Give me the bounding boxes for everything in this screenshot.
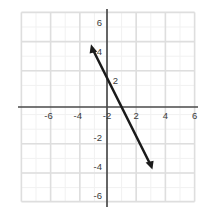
- x-tick-label-neg6: -6: [44, 110, 52, 121]
- y-tick-label-neg6: -6: [94, 190, 102, 201]
- x-tick-label-pos6: 6: [192, 110, 197, 121]
- coordinate-plane-graph: -6 -4 -2 2 4 6 6 4 2 -2 -4 -6: [0, 0, 215, 219]
- y-tick-label-pos4: 4: [97, 46, 102, 57]
- x-tick-label-neg2: -2: [103, 110, 111, 121]
- x-tick-label-neg4: -4: [74, 110, 82, 121]
- y-tick-label-pos2: 2: [113, 75, 118, 86]
- y-tick-label-neg4: -4: [94, 161, 102, 172]
- x-tick-label-pos4: 4: [163, 110, 168, 121]
- arrowhead-lower: [146, 161, 154, 170]
- x-tick-label-pos2: 2: [134, 110, 139, 121]
- y-tick-label-neg2: -2: [94, 132, 102, 143]
- graph-canvas: -6 -4 -2 2 4 6 6 4 2 -2 -4 -6: [0, 0, 215, 219]
- y-tick-label-pos6: 6: [97, 17, 102, 28]
